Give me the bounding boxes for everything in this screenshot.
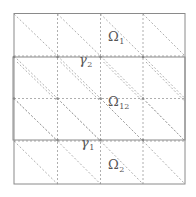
- label-omega-2: Ω2: [108, 156, 124, 174]
- label-gamma-2: γ2: [79, 51, 92, 69]
- label-omega-1: Ω1: [108, 28, 124, 46]
- mesh-diagram: [0, 0, 196, 197]
- omega-1-symbol: Ω: [108, 29, 119, 44]
- gamma-2-symbol: γ: [79, 52, 87, 67]
- gamma-2-subscript: 2: [87, 60, 92, 69]
- omega-1-subscript: 1: [119, 37, 124, 46]
- gamma-1-symbol: γ: [81, 135, 89, 150]
- omega-2-symbol: Ω: [108, 157, 119, 172]
- omega-12-subscript: 12: [119, 102, 129, 111]
- label-omega-12: Ω12: [108, 93, 129, 111]
- label-gamma-1: γ1: [81, 134, 94, 152]
- omega-2-subscript: 2: [119, 165, 124, 174]
- omega-12-symbol: Ω: [108, 94, 119, 109]
- gamma-1-subscript: 1: [89, 143, 94, 152]
